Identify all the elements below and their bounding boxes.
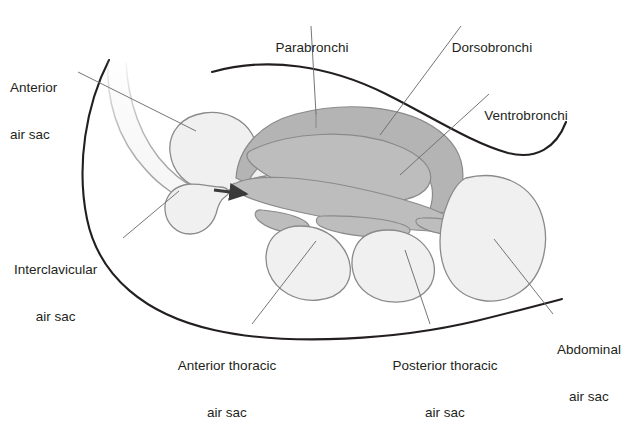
- label-ventrobronchi-line1: Ventrobronchi: [473, 108, 579, 124]
- label-anterior-thoracic-air-sac: Anterior thoracic air sac: [163, 327, 291, 421]
- label-interclavicular-air-sac: Interclavicular air sac: [14, 231, 97, 355]
- label-anterior-thoracic-air-sac-line2: air sac: [163, 405, 291, 421]
- label-interclavicular-air-sac-line2: air sac: [14, 309, 97, 325]
- label-posterior-thoracic-air-sac-line1: Posterior thoracic: [379, 358, 511, 374]
- label-interclavicular-air-sac-line1: Interclavicular: [14, 262, 97, 278]
- label-dorsobronchi-line1: Dorsobronchi: [440, 40, 544, 56]
- label-abdominal-air-sac: Abdominal air sac: [550, 311, 628, 421]
- label-abdominal-air-sac-line1: Abdominal: [550, 342, 628, 358]
- label-anterior-thoracic-air-sac-line1: Anterior thoracic: [163, 358, 291, 374]
- label-posterior-thoracic-air-sac-line2: air sac: [379, 405, 511, 421]
- label-ventrobronchi: Ventrobronchi: [473, 77, 579, 155]
- label-anterior-air-sac-line2: air sac: [10, 127, 57, 143]
- label-parabronchi-line1: Parabronchi: [264, 40, 360, 56]
- label-anterior-air-sac-line1: Anterior: [10, 80, 57, 96]
- abdominal-air-sac-shape: [440, 176, 546, 301]
- label-anterior-air-sac: Anterior air sac: [10, 49, 57, 173]
- posterior-thoracic-air-sac-shape: [352, 230, 434, 302]
- label-parabronchi: Parabronchi: [264, 9, 360, 87]
- label-posterior-thoracic-air-sac: Posterior thoracic air sac: [379, 327, 511, 421]
- label-dorsobronchi: Dorsobronchi: [440, 9, 544, 87]
- label-abdominal-air-sac-line2: air sac: [550, 389, 628, 405]
